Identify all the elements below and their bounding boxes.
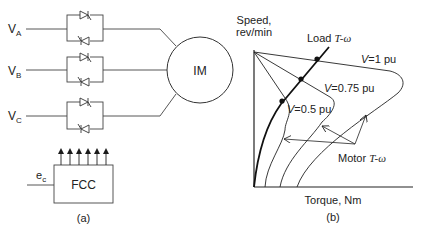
gate-signal-arrows bbox=[61, 151, 106, 165]
operating-point-v05 bbox=[279, 98, 284, 103]
firing-control-circuit: FCC ec bbox=[27, 151, 113, 203]
panel-b-torque-speed-chart: Speed, rev/min Torque, Nm (b) Load T-ω V… bbox=[236, 14, 413, 223]
fcc-label: FCC bbox=[71, 178, 96, 192]
induction-motor: IM bbox=[167, 37, 233, 103]
operating-point-v1 bbox=[314, 56, 319, 61]
voltage-label-1pu: V=1 pu bbox=[361, 53, 396, 65]
motor-curve-label: Motor T-ω bbox=[338, 152, 386, 164]
load-curve-label: Load T-ω bbox=[307, 32, 351, 44]
phase-b-branch: VB bbox=[8, 52, 167, 87]
phase-c-label: VC bbox=[8, 109, 22, 125]
motor-label: IM bbox=[193, 64, 206, 78]
voltage-label-05pu: V=0.5 pu bbox=[287, 103, 331, 115]
phase-b-label: VB bbox=[8, 64, 21, 80]
x-axis-label: Torque, Nm bbox=[305, 194, 362, 206]
panel-b-caption: (b) bbox=[326, 211, 339, 223]
phase-a-label: VA bbox=[8, 22, 22, 38]
control-input-label: ec bbox=[36, 169, 46, 184]
motor-curve-v1 bbox=[254, 52, 403, 187]
diagram-canvas: VA VB VC bbox=[0, 0, 424, 233]
motor-curves bbox=[254, 52, 403, 187]
voltage-label-075pu: V=0.75 pu bbox=[324, 82, 374, 94]
motor-curve-v075 bbox=[254, 52, 334, 187]
operating-point-v075 bbox=[298, 76, 303, 81]
y-axis-label-units: rev/min bbox=[236, 26, 272, 38]
phase-a-branch: VA bbox=[8, 10, 176, 46]
panel-a-caption: (a) bbox=[77, 212, 90, 224]
phase-c-branch: VC bbox=[8, 94, 176, 134]
y-axis-label: Speed, bbox=[237, 14, 272, 26]
panel-a-circuit: VA VB VC bbox=[8, 10, 233, 224]
